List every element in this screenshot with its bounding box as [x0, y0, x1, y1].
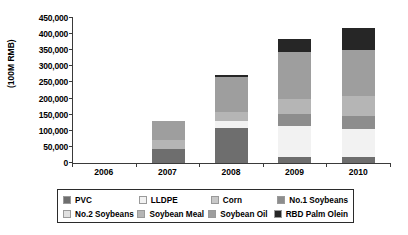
legend-swatch-icon — [63, 196, 71, 204]
bar-segment[interactable] — [342, 129, 375, 158]
legend-label: Corn — [223, 196, 242, 205]
bar-segment[interactable] — [152, 149, 185, 163]
legend-swatch-icon — [211, 196, 219, 204]
bar-segment[interactable] — [342, 50, 375, 95]
legend-item[interactable]: RBD Palm Olein — [274, 210, 348, 219]
legend-item[interactable]: LLDPE — [139, 196, 211, 205]
bar-segment[interactable] — [278, 157, 311, 163]
legend-item[interactable]: Corn — [211, 196, 278, 205]
bar-slot-2006 — [73, 18, 136, 163]
y-axis-tick-label: 0 — [63, 158, 68, 168]
legend-label: Soybean Oil — [220, 210, 267, 219]
bar-slot-2008 — [200, 18, 263, 163]
legend-label: PVC — [75, 196, 92, 205]
legend-item[interactable]: PVC — [63, 196, 139, 205]
y-axis-tick-label: 100,000 — [39, 126, 68, 136]
legend-row-2: No.2 SoybeansSoybean MealSoybean OilRBD … — [63, 207, 348, 221]
legend-label: No.1 Soybeans — [289, 196, 348, 205]
y-axis-tick-label: 450,000 — [39, 13, 68, 23]
x-axis-tick — [326, 163, 327, 167]
y-axis-tick-label: 200,000 — [39, 94, 68, 104]
bar-segment[interactable] — [152, 121, 185, 140]
bar-segment[interactable] — [278, 126, 311, 156]
stacked-bar-2007[interactable] — [152, 121, 185, 163]
chart-legend: PVCLLDPECornNo.1 Soybeans No.2 SoybeansS… — [57, 189, 354, 223]
stacked-bar-2009[interactable] — [278, 39, 311, 163]
bar-segment[interactable] — [215, 77, 248, 112]
bar-segment[interactable] — [278, 99, 311, 114]
x-axis-label-2006: 2006 — [72, 167, 136, 177]
y-axis-tick-label: 300,000 — [39, 61, 68, 71]
x-axis-tick — [263, 163, 264, 167]
legend-swatch-icon — [139, 196, 147, 204]
bar-segment[interactable] — [278, 39, 311, 52]
stacked-bar-2010[interactable] — [342, 28, 375, 163]
bar-segment[interactable] — [278, 114, 311, 126]
x-axis-label-2008: 2008 — [199, 167, 263, 177]
legend-item[interactable]: No.1 Soybeans — [277, 196, 348, 205]
bar-segment[interactable] — [342, 116, 375, 129]
x-axis-tick — [199, 163, 200, 167]
stacked-column-chart: (100M RMB) 050,000100,000150,000200,0002… — [0, 0, 408, 235]
x-axis-label-2009: 2009 — [263, 167, 327, 177]
bar-group — [73, 18, 390, 163]
bar-segment[interactable] — [342, 28, 375, 50]
x-axis-labels: 20062007200820092010 — [72, 167, 390, 177]
legend-item[interactable]: Soybean Oil — [208, 210, 273, 219]
legend-swatch-icon — [277, 196, 285, 204]
legend-swatch-icon — [274, 210, 282, 218]
y-axis-tick-label: 50,000 — [43, 142, 68, 152]
x-axis-tick — [390, 163, 391, 167]
x-axis-label-2010: 2010 — [326, 167, 390, 177]
bar-segment[interactable] — [152, 140, 185, 150]
x-axis-tick — [136, 163, 137, 167]
y-axis-tick-label: 250,000 — [39, 77, 68, 87]
x-axis-label-2007: 2007 — [136, 167, 200, 177]
legend-label: RBD Palm Olein — [286, 210, 348, 219]
y-axis-title: (100M RMB) — [6, 39, 16, 88]
bar-slot-2010 — [327, 18, 390, 163]
plot-area: 050,000100,000150,000200,000250,000300,0… — [72, 18, 390, 164]
bar-segment[interactable] — [215, 112, 248, 121]
stacked-bar-2008[interactable] — [215, 75, 248, 163]
legend-row-1: PVCLLDPECornNo.1 Soybeans — [63, 193, 348, 207]
bar-segment[interactable] — [342, 157, 375, 163]
legend-label: Soybean Meal — [149, 210, 204, 219]
y-axis-tick-label: 350,000 — [39, 45, 68, 55]
legend-item[interactable]: Soybean Meal — [137, 210, 208, 219]
legend-item[interactable]: No.2 Soybeans — [63, 210, 137, 219]
bar-segment[interactable] — [342, 96, 375, 116]
legend-swatch-icon — [63, 210, 71, 218]
legend-label: LLDPE — [151, 196, 178, 205]
legend-swatch-icon — [137, 210, 145, 218]
bar-slot-2007 — [136, 18, 199, 163]
legend-label: No.2 Soybeans — [75, 210, 134, 219]
x-axis-tick — [72, 163, 73, 167]
y-axis-tick-label: 150,000 — [39, 110, 68, 120]
bar-segment[interactable] — [278, 52, 311, 99]
bar-segment[interactable] — [215, 121, 248, 128]
y-axis-tick-label: 400,000 — [39, 29, 68, 39]
bar-segment[interactable] — [215, 128, 248, 163]
bar-slot-2009 — [263, 18, 326, 163]
legend-swatch-icon — [208, 210, 216, 218]
